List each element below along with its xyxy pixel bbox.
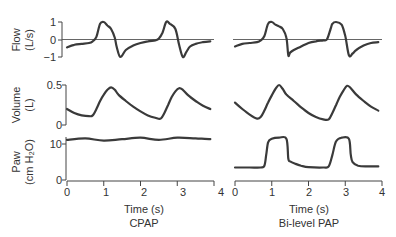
flow-tick-neg1: −1 (43, 51, 56, 63)
flow-tick-1: 1 (50, 16, 56, 28)
svg-text:2: 2 (141, 186, 147, 198)
bipap-paw-curve (235, 137, 378, 168)
flow-ylabel: Flow (L/s) (10, 28, 35, 51)
bipap-x-ticks: 0 1 2 3 4 (232, 186, 385, 198)
paw-tick-10: 10 (50, 138, 62, 150)
svg-text:4: 4 (218, 186, 224, 198)
cpap-paw-curve (67, 138, 210, 141)
svg-text:4: 4 (379, 186, 385, 198)
svg-text:(L): (L) (23, 98, 35, 111)
cpap-volume-curve (67, 87, 210, 118)
svg-text:Volume: Volume (10, 87, 22, 124)
chart-canvas: Flow (L/s) Volume (L) Paw (cm H₂O) 1 0 −… (0, 0, 396, 237)
bipap-volume-curve (235, 85, 378, 120)
svg-text:3: 3 (180, 186, 186, 198)
cpap-x-ticks: 0 1 2 3 4 (64, 186, 224, 198)
volume-tick-0: 0 (56, 119, 62, 131)
paw-ylabel: Paw (cm H₂O) (10, 139, 35, 185)
svg-text:1: 1 (103, 186, 109, 198)
cpap-xlabel: Time (s) (124, 203, 164, 215)
svg-text:(L/s): (L/s) (23, 29, 35, 51)
svg-text:Paw: Paw (10, 151, 22, 172)
respiratory-waveform-chart: Flow (L/s) Volume (L) Paw (cm H₂O) 1 0 −… (0, 0, 396, 237)
svg-text:Flow: Flow (10, 28, 22, 51)
bipap-title: Bi-level PAP (279, 217, 339, 229)
svg-text:3: 3 (343, 186, 349, 198)
svg-text:0: 0 (64, 186, 70, 198)
waveforms (67, 21, 378, 167)
flow-tick-0: 0 (50, 34, 56, 46)
cpap-title: CPAP (129, 217, 158, 229)
svg-text:(cm H₂O): (cm H₂O) (23, 139, 35, 185)
svg-text:0: 0 (232, 186, 238, 198)
svg-text:2: 2 (306, 186, 312, 198)
volume-ylabel: Volume (L) (10, 87, 35, 124)
paw-tick-0: 0 (56, 174, 62, 186)
svg-text:1: 1 (269, 186, 275, 198)
volume-tick-05: 0.5 (47, 79, 62, 91)
axes (58, 22, 382, 186)
bipap-xlabel: Time (s) (289, 203, 329, 215)
